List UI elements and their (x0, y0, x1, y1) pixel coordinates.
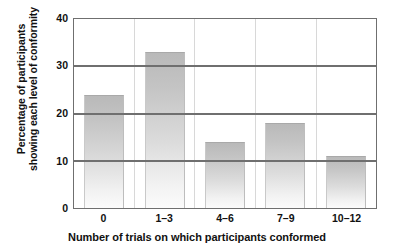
bar-0 (84, 95, 124, 208)
gridline-10 (74, 160, 376, 162)
bar-2 (205, 142, 245, 208)
bar-1 (145, 52, 185, 208)
y-tick-label-40: 40 (42, 12, 68, 24)
gridline-30 (74, 65, 376, 67)
y-tick-label-20: 20 (42, 107, 68, 119)
plot-area (73, 18, 377, 209)
bar-chart-figure: Percentage of participants showing each … (0, 0, 394, 252)
y-tick-label-0: 0 (42, 202, 68, 214)
x-tick-label-1: 1–3 (134, 212, 195, 224)
x-tick-label-0: 0 (73, 212, 134, 224)
y-axis-title-line2: showing each level of conformity (28, 7, 40, 171)
x-axis-title: Number of trials on which participants c… (0, 231, 394, 243)
y-axis-title: Percentage of participants showing each … (11, 0, 45, 193)
x-tick-label-4: 10–12 (316, 212, 377, 224)
x-tick-label-3: 7–9 (255, 212, 316, 224)
y-tick-label-30: 30 (42, 59, 68, 71)
x-axis-tick-labels: 0 1–3 4–6 7–9 10–12 (73, 212, 377, 224)
gridline-20 (74, 113, 376, 115)
bar-4 (326, 156, 366, 208)
y-tick-label-10: 10 (42, 155, 68, 167)
x-tick-label-2: 4–6 (195, 212, 256, 224)
bar-3 (265, 123, 305, 208)
